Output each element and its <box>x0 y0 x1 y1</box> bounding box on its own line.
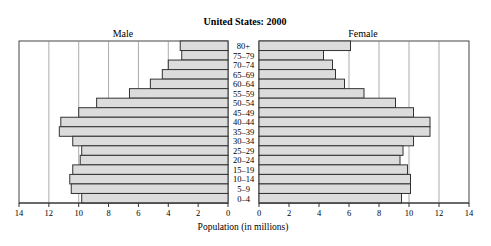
male-bar <box>150 79 228 89</box>
female-bar <box>259 117 430 127</box>
age-group-label: 55–59 <box>233 89 254 99</box>
female-x-tick-label: 10 <box>405 208 414 218</box>
female-bar <box>259 155 400 165</box>
x-axes: 0022446688101012121414 <box>15 203 474 218</box>
age-group-label: 65–69 <box>233 70 254 80</box>
female-x-tick-label: 8 <box>377 208 381 218</box>
male-bar <box>82 193 228 203</box>
chart-title: United States: 2000 <box>204 16 287 27</box>
male-x-tick-label: 4 <box>166 208 171 218</box>
female-bar <box>259 193 402 203</box>
female-bar <box>259 70 336 80</box>
male-bar <box>73 136 228 146</box>
male-bar <box>61 117 228 127</box>
male-panel <box>19 41 228 203</box>
age-group-label: 70–74 <box>233 60 255 70</box>
age-group-label: 20–24 <box>233 155 255 165</box>
age-group-label: 35–39 <box>233 127 254 137</box>
male-x-tick-label: 6 <box>136 208 140 218</box>
male-x-tick-label: 10 <box>74 208 83 218</box>
male-bar <box>182 51 228 61</box>
female-bar <box>259 165 408 175</box>
female-bar <box>259 184 411 194</box>
age-group-label: 30–34 <box>233 136 255 146</box>
male-x-tick-label: 12 <box>45 208 54 218</box>
female-bar <box>259 127 430 137</box>
female-bar <box>259 136 414 146</box>
female-panel-label: Female <box>348 28 378 39</box>
male-bar <box>168 60 228 70</box>
age-group-label: 80+ <box>237 41 251 51</box>
age-group-label: 10–14 <box>233 174 255 184</box>
age-group-label: 0–4 <box>237 194 251 204</box>
female-bar <box>259 89 364 99</box>
female-panel <box>259 41 469 203</box>
female-bar <box>259 60 333 70</box>
female-bar <box>259 51 324 61</box>
age-group-label: 25–29 <box>233 146 254 156</box>
male-panel-label: Male <box>113 28 134 39</box>
age-group-label: 5–9 <box>237 184 250 194</box>
male-bar <box>97 98 228 108</box>
female-x-tick-label: 4 <box>317 208 322 218</box>
female-bar <box>259 79 345 89</box>
age-group-label: 60–64 <box>233 79 255 89</box>
male-bar <box>73 165 228 175</box>
male-bar <box>180 41 228 51</box>
age-group-labels: 80+75–7970–7465–6960–6455–5950–5445–4940… <box>233 41 255 203</box>
female-x-tick-label: 14 <box>465 208 474 218</box>
population-pyramid-chart: United States: 2000 Male Female 80+75–79… <box>0 0 491 246</box>
x-axis-title: Population (in millions) <box>198 222 289 233</box>
male-bar <box>162 70 228 80</box>
female-bar <box>259 41 351 51</box>
female-x-tick-label: 2 <box>287 208 291 218</box>
male-bar <box>129 89 228 99</box>
age-group-label: 50–54 <box>233 98 255 108</box>
female-bar <box>259 98 396 108</box>
male-bar <box>80 155 228 165</box>
male-x-tick-label: 0 <box>226 208 230 218</box>
female-x-tick-label: 6 <box>347 208 351 218</box>
age-group-label: 15–19 <box>233 165 254 175</box>
male-bar <box>71 184 228 194</box>
male-x-tick-label: 8 <box>106 208 110 218</box>
male-x-tick-label: 2 <box>196 208 200 218</box>
male-x-tick-label: 14 <box>15 208 24 218</box>
female-bar <box>259 108 414 118</box>
age-group-label: 75–79 <box>233 51 254 61</box>
female-bar <box>259 174 411 184</box>
female-bar <box>259 146 403 156</box>
female-x-tick-label: 0 <box>257 208 261 218</box>
female-x-tick-label: 12 <box>435 208 444 218</box>
male-bar <box>82 146 228 156</box>
male-bar <box>70 174 228 184</box>
male-bar <box>59 127 228 137</box>
male-bar <box>79 108 228 118</box>
age-group-label: 45–49 <box>233 108 254 118</box>
age-group-label: 40–44 <box>233 117 255 127</box>
